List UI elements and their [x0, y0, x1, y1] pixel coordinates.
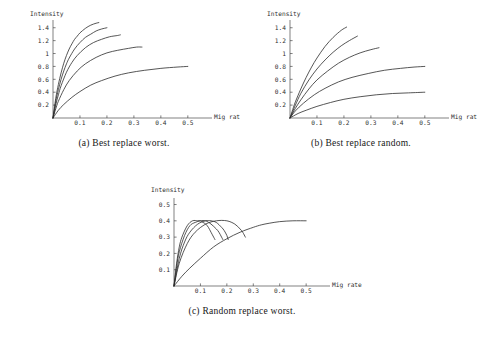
panel-c-caption: (c) Random replace worst.: [122, 306, 362, 316]
x-tick-label: 0.2: [338, 119, 349, 126]
x-tick-label: 0.3: [365, 119, 376, 126]
x-tick-label: 0.1: [311, 119, 322, 126]
panel-b-plot: Intensity0.20.40.60.811.21.40.10.20.30.4…: [245, 6, 477, 138]
y-tick-label: 1: [45, 50, 49, 57]
y-tick-label: 0.4: [275, 88, 286, 95]
x-tick-label: 0.5: [301, 287, 312, 294]
x-axis-title: Mig rate: [332, 281, 362, 289]
y-tick-label: 0.2: [38, 101, 49, 108]
data-curve: [290, 66, 425, 118]
y-tick-label: 1.2: [38, 37, 49, 44]
y-tick-label: 1: [282, 50, 286, 57]
x-axis-title: Mig rate: [451, 113, 477, 121]
data-curve: [53, 23, 99, 118]
data-curve: [290, 27, 347, 118]
chart-a-svg: Intensity0.20.40.60.811.21.40.10.20.30.4…: [8, 6, 240, 138]
chart-c-svg: Intensity0.10.20.30.40.50.10.20.30.40.5M…: [122, 182, 362, 306]
panel-c: Intensity0.10.20.30.40.50.10.20.30.40.5M…: [122, 182, 362, 316]
y-tick-label: 0.8: [38, 63, 49, 70]
y-tick-label: 0.6: [275, 76, 286, 83]
panel-a-plot: Intensity0.20.40.60.811.21.40.10.20.30.4…: [8, 6, 240, 138]
y-tick-label: 1.2: [275, 37, 286, 44]
x-tick-label: 0.3: [128, 119, 139, 126]
panel-b-caption: (b) Best replace random.: [245, 138, 477, 148]
x-tick-label: 0.5: [419, 119, 430, 126]
y-tick-label: 0.6: [38, 76, 49, 83]
panel-a-caption: (a) Best replace worst.: [8, 138, 240, 148]
panel-a: Intensity0.20.40.60.811.21.40.10.20.30.4…: [8, 6, 240, 148]
x-tick-label: 0.4: [155, 119, 166, 126]
data-curve: [174, 220, 223, 286]
y-tick-label: 0.8: [275, 63, 286, 70]
data-curve: [53, 66, 188, 118]
x-tick-label: 0.1: [195, 287, 206, 294]
panel-b: Intensity0.20.40.60.811.21.40.10.20.30.4…: [245, 6, 477, 148]
y-tick-label: 0.2: [159, 250, 170, 257]
y-tick-label: 1.4: [275, 24, 286, 31]
y-tick-label: 0.4: [159, 217, 170, 224]
x-tick-label: 0.5: [182, 119, 193, 126]
y-axis-title: Intensity: [30, 10, 64, 18]
y-tick-label: 1.4: [38, 24, 49, 31]
y-tick-label: 0.4: [38, 88, 49, 95]
x-axis-title: Mig rate: [214, 113, 240, 121]
y-tick-label: 0.1: [159, 266, 170, 273]
y-axis-title: Intensity: [267, 10, 301, 18]
x-tick-label: 0.3: [248, 287, 259, 294]
figure-root: Intensity0.20.40.60.811.21.40.10.20.30.4…: [0, 0, 485, 350]
x-tick-label: 0.1: [74, 119, 85, 126]
x-tick-label: 0.2: [221, 287, 232, 294]
x-tick-label: 0.2: [101, 119, 112, 126]
data-curve: [174, 220, 215, 286]
x-tick-label: 0.4: [274, 287, 285, 294]
panel-c-plot: Intensity0.10.20.30.40.50.10.20.30.40.5M…: [122, 182, 362, 306]
data-curve: [290, 92, 425, 118]
data-curve: [174, 221, 306, 286]
chart-b-svg: Intensity0.20.40.60.811.21.40.10.20.30.4…: [245, 6, 477, 138]
y-tick-label: 0.2: [275, 101, 286, 108]
y-axis-title: Intensity: [151, 186, 185, 194]
y-tick-label: 0.5: [159, 201, 170, 208]
x-tick-label: 0.4: [392, 119, 403, 126]
y-tick-label: 0.3: [159, 233, 170, 240]
